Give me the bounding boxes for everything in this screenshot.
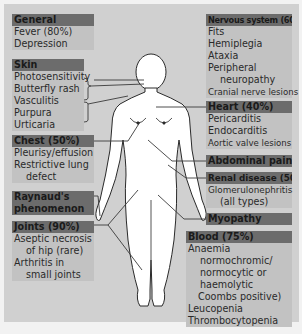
heart-box: Heart (40%) Pericarditis Endocarditis Ao… [206,101,292,149]
nervous-item: neuropathy [206,74,292,86]
chest-header: Chest (50%) [12,135,94,147]
chest-item: Restrictive lung [12,159,94,171]
heart-item: Endocarditis [206,125,292,137]
blood-item: normocytic or [186,267,292,279]
joints-item: of hip (rare) [12,245,94,257]
renal-header: Renal disease (50%) [206,172,292,184]
skin-item: Vasculitis [12,95,84,107]
blood-item: Coombs positive) [186,291,292,303]
myopathy-box: Myopathy [206,213,292,225]
nervous-system-header: Nervous system (60%) [206,14,292,26]
renal-box: Renal disease (50%) Glomerulonephritis (… [206,172,292,208]
myopathy-header: Myopathy [206,213,292,225]
raynauds-header-line1: Raynaud's [12,191,94,203]
skin-header: Skin [12,59,84,71]
head-icon [136,54,166,90]
abdominal-pain-box: Abdominal pain [206,155,292,167]
raynauds-box: Raynaud's phenomenon [12,191,94,215]
blood-header: Blood (75%) [186,231,292,243]
heart-item: Aortic valve lesions [206,137,292,149]
heart-item: Pericarditis [206,113,292,125]
heart-header: Heart (40%) [206,101,292,113]
renal-item: (all types) [206,196,292,208]
renal-item: Glomerulonephritis [206,184,292,196]
blood-item: normochromic/ [186,255,292,267]
chest-item: Pleurisy/effusion [12,147,94,159]
nervous-item: Ataxia [206,50,292,62]
general-item: Depression [12,38,94,50]
blood-item: Anaemia [186,243,292,255]
chest-item: defect [12,171,94,183]
nervous-item: Fits [206,26,292,38]
chest-box: Chest (50%) Pleurisy/effusion Restrictiv… [12,135,94,183]
skin-box: Skin Photosensitivity Butterfly rash Vas… [12,59,84,131]
nervous-system-box: Nervous system (60%) Fits Hemiplegia Ata… [206,14,292,98]
nervous-item: Cranial nerve lesions [206,86,292,98]
general-box: General Fever (80%) Depression [12,14,94,50]
blood-item: haemolytic [186,279,292,291]
nervous-item: Peripheral [206,62,292,74]
joints-item: small joints [12,269,94,281]
joints-box: Joints (90%) Aseptic necrosis of hip (ra… [12,221,94,281]
skin-item: Photosensitivity [12,71,84,83]
nervous-item: Hemiplegia [206,38,292,50]
blood-item: Thrombocytopenia [186,315,292,327]
skin-item: Butterfly rash [12,83,84,95]
joints-item: Arthritis in [12,257,94,269]
blood-item: Leucopenia [186,303,292,315]
joints-header: Joints (90%) [12,221,94,233]
blood-box: Blood (75%) Anaemia normochromic/ normoc… [186,231,292,327]
general-header: General [12,14,94,26]
general-item: Fever (80%) [12,26,94,38]
abdominal-pain-header: Abdominal pain [206,155,292,167]
raynauds-header-line2: phenomenon [12,203,94,215]
joints-item: Aseptic necrosis [12,233,94,245]
skin-item: Purpura [12,107,84,119]
skin-item: Urticaria [12,119,84,131]
